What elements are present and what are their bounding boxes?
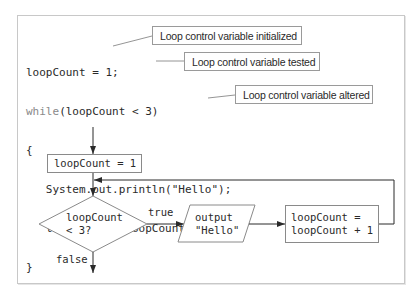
false-label: false — [56, 253, 88, 266]
callout-initialized: Loop control variable initialized — [152, 26, 302, 45]
callout-leader-initialized — [113, 36, 152, 46]
callout-leader-altered — [208, 95, 235, 98]
increment-label-line1: loopCount = — [291, 211, 361, 224]
decision-label-line1: loopCount — [66, 211, 123, 224]
increment-label-line2: loopCount + 1 — [291, 224, 373, 237]
decision-label-line2: < 3? — [66, 224, 91, 237]
output-label-line2: "Hello" — [195, 224, 239, 237]
decision-diamond-shape — [39, 196, 147, 252]
init-box-label: loopCount = 1 — [54, 157, 136, 170]
true-label: true — [148, 206, 173, 219]
callout-tested: Loop control variable tested — [184, 52, 320, 71]
output-label-line1: output — [195, 211, 233, 224]
callout-altered: Loop control variable altered — [235, 85, 373, 104]
